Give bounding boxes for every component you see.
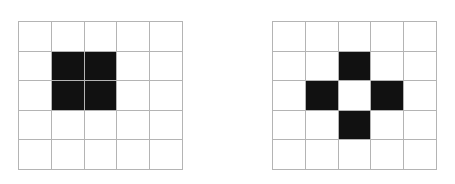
grid-cell-r1-c0	[273, 52, 305, 81]
grid-cell-r4-c0	[19, 140, 51, 169]
grid-cell-r0-c1	[52, 22, 84, 51]
grid-cell-r0-c2	[85, 22, 117, 51]
grid-cell-r2-c4	[150, 81, 182, 110]
grid-cell-r4-c4	[150, 140, 182, 169]
grid-cell-r3-c1	[52, 111, 84, 140]
grid-cell-r1-c1	[306, 52, 338, 81]
grid-cell-r0-c4	[150, 22, 182, 51]
grid-cell-r4-c1	[52, 140, 84, 169]
grid-cell-r2-c2	[339, 81, 371, 110]
grid-cell-r3-c1	[306, 111, 338, 140]
grid-cell-r1-c3	[371, 52, 403, 81]
grid-cell-r1-c2	[85, 52, 117, 81]
grid-cell-r3-c4	[150, 111, 182, 140]
grid-cell-r4-c2	[339, 140, 371, 169]
grid-cell-r2-c3	[371, 81, 403, 110]
grid-cell-r2-c1	[52, 81, 84, 110]
grid-cell-r3-c2	[85, 111, 117, 140]
grid-cell-r2-c0	[273, 81, 305, 110]
right-grid-panel	[272, 21, 437, 170]
figure-canvas	[0, 0, 455, 184]
grid-cell-r0-c0	[273, 22, 305, 51]
grid-cell-r4-c0	[273, 140, 305, 169]
grid-cell-r3-c4	[404, 111, 436, 140]
grid-cell-r0-c1	[306, 22, 338, 51]
grid-cell-r2-c3	[117, 81, 149, 110]
grid-cell-r4-c4	[404, 140, 436, 169]
grid-cell-r0-c3	[117, 22, 149, 51]
grid-cell-r1-c2	[339, 52, 371, 81]
grid-cell-r0-c4	[404, 22, 436, 51]
grid-cell-r1-c3	[117, 52, 149, 81]
grid-cell-r4-c2	[85, 140, 117, 169]
left-grid-panel	[18, 21, 183, 170]
grid-cell-r2-c0	[19, 81, 51, 110]
grid-cell-r2-c1	[306, 81, 338, 110]
grid-cell-r1-c4	[150, 52, 182, 81]
grid-cell-r1-c1	[52, 52, 84, 81]
grid-cell-r4-c1	[306, 140, 338, 169]
grid-cell-r4-c3	[117, 140, 149, 169]
grid-cell-r3-c3	[371, 111, 403, 140]
grid-cell-r0-c3	[371, 22, 403, 51]
grid-cell-r3-c3	[117, 111, 149, 140]
grid-cell-r3-c0	[19, 111, 51, 140]
grid-cell-r0-c2	[339, 22, 371, 51]
grid-cell-r3-c2	[339, 111, 371, 140]
grid-cell-r0-c0	[19, 22, 51, 51]
grid-cell-r2-c4	[404, 81, 436, 110]
grid-cell-r1-c0	[19, 52, 51, 81]
grid-cell-r2-c2	[85, 81, 117, 110]
grid-cell-r3-c0	[273, 111, 305, 140]
grid-cell-r4-c3	[371, 140, 403, 169]
grid-cell-r1-c4	[404, 52, 436, 81]
